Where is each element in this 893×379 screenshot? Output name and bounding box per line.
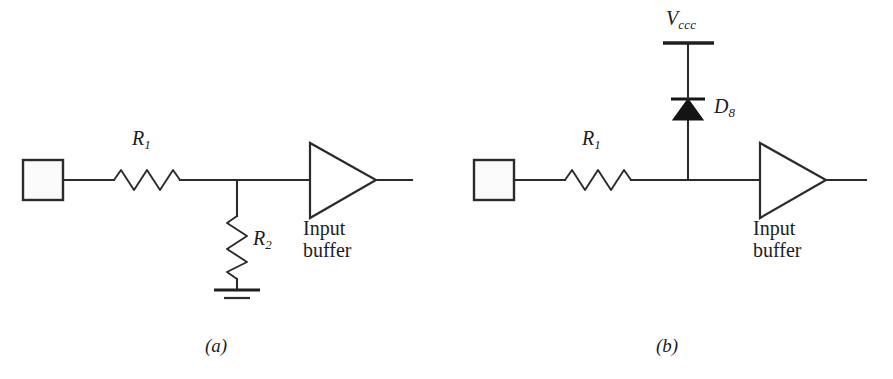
resistor-r1-symbol-b <box>565 170 631 190</box>
resistor-r2-symbol-a <box>227 216 247 279</box>
circuit-figure: R1 R2 Input buffer (a) R1 Vccc D8 Input … <box>0 0 893 379</box>
label-vcc-rail-b: Vccc <box>666 8 696 32</box>
label-input-buffer-a: Input buffer <box>303 218 352 261</box>
circuit-schematic-canvas <box>0 0 893 379</box>
label-r1-a: R1 <box>132 128 151 152</box>
diode-d8-triangle-b <box>673 99 703 120</box>
input-buffer-triangle-a[interactable] <box>310 143 376 218</box>
label-r1-b: R1 <box>582 128 601 152</box>
circuit-a-group <box>23 143 412 298</box>
label-d8-b: D8 <box>714 96 735 120</box>
input-buffer-triangle-b[interactable] <box>760 143 826 218</box>
terminal-square-a[interactable] <box>23 160 63 200</box>
label-input-buffer-b: Input buffer <box>753 218 802 261</box>
caption-a: (a) <box>205 336 227 357</box>
label-r2-a: R2 <box>253 228 272 252</box>
circuit-b-group <box>474 43 866 218</box>
resistor-r1-symbol-a <box>114 170 180 190</box>
terminal-square-b[interactable] <box>474 160 514 200</box>
caption-b: (b) <box>656 336 678 357</box>
